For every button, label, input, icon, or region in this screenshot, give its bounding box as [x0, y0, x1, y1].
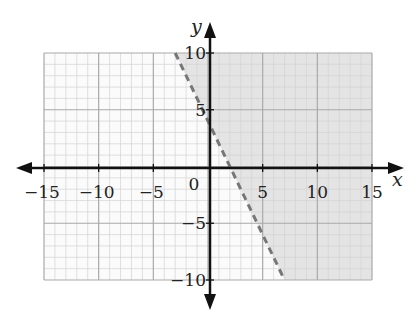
- x-tick-label: 0: [189, 174, 200, 194]
- y-tick-label: −5: [181, 213, 206, 233]
- x-tick-label: −5: [139, 182, 164, 202]
- y-tick-label: −10: [170, 270, 206, 290]
- x-tick-label: 10: [307, 182, 329, 202]
- inequality-graph: −15−10−5051015−10−5510 x y: [0, 0, 418, 333]
- x-tick-label: 15: [361, 182, 383, 202]
- y-axis-label: y: [190, 15, 202, 37]
- x-tick-label: −10: [79, 182, 115, 202]
- x-tick-label: −15: [24, 182, 60, 202]
- y-tick-label: 5: [195, 100, 206, 120]
- y-tick-label: 10: [184, 43, 206, 63]
- x-tick-label: 5: [257, 182, 268, 202]
- x-axis-label: x: [392, 168, 403, 190]
